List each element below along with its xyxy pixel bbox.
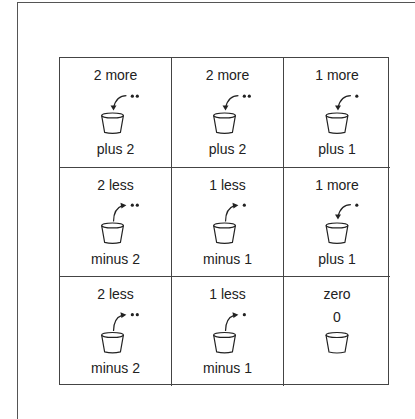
grid-cell-minus-1: 1 less minus 1: [172, 168, 284, 277]
cell-top-label: 2 less: [60, 177, 171, 193]
grid-cell-plus-1: 1 more plus 1: [284, 168, 390, 277]
counter-grid: 2 more plus 2 2 more plus 2 1 more: [59, 57, 389, 385]
grid-cell-plus-1: 1 more plus 1: [284, 58, 390, 168]
cell-bottom-label: minus 1: [172, 251, 283, 267]
grid-cell-minus-2: 2 less minus 2: [60, 168, 172, 277]
cell-top-label: 1 more: [284, 67, 390, 83]
cell-bottom-label: plus 1: [284, 251, 390, 267]
cell-bottom-label: plus 1: [284, 141, 390, 157]
cell-top-label: 1 more: [284, 177, 390, 193]
cell-bottom-label: minus 2: [60, 251, 171, 267]
outer-frame-left-border: [17, 2, 18, 419]
grid-cell-plus-2: 2 more plus 2: [60, 58, 172, 168]
cell-bottom-label: minus 1: [172, 360, 283, 376]
cell-top-label: 1 less: [172, 286, 283, 302]
cell-bottom-label: plus 2: [60, 141, 171, 157]
cell-zero-value: 0: [284, 309, 390, 325]
grid-cell-minus-1: 1 less minus 1: [172, 277, 284, 386]
cell-top-label: zero: [284, 286, 390, 302]
cell-top-label: 2 more: [172, 67, 283, 83]
grid-cell-plus-2: 2 more plus 2: [172, 58, 284, 168]
cell-top-label: 2 less: [60, 286, 171, 302]
cell-top-label: 1 less: [172, 177, 283, 193]
cell-bottom-label: minus 2: [60, 360, 171, 376]
outer-frame-top-border: [17, 2, 415, 3]
grid-cell-minus-2: 2 less minus 2: [60, 277, 172, 386]
cell-bottom-label: plus 2: [172, 141, 283, 157]
grid-cell-zero: zero 0: [284, 277, 390, 386]
cell-top-label: 2 more: [60, 67, 171, 83]
